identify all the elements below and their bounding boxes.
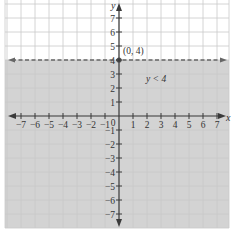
point-label: (0, 4) (123, 46, 144, 57)
coordinate-plane: −7−6−5−4−3−2−112345670−7−6−5−4−3−2−11234… (0, 0, 232, 233)
x-tick-label: 7 (215, 120, 220, 130)
y-tick-label: 6 (110, 28, 115, 38)
x-tick-label: 6 (201, 120, 206, 130)
x-axis-label: x (225, 112, 231, 123)
y-tick-label: −3 (105, 154, 115, 164)
y-tick-label: −1 (105, 126, 115, 136)
y-tick-label: 5 (110, 42, 115, 52)
x-tick-label: 3 (159, 120, 164, 130)
x-tick-label: −7 (16, 120, 26, 130)
y-tick-label: 3 (110, 70, 115, 80)
y-tick-label: 4 (110, 56, 115, 66)
y-tick-label: 1 (110, 98, 115, 108)
x-tick-label: 1 (131, 120, 136, 130)
x-tick-label: −3 (72, 120, 82, 130)
x-tick-label: −4 (58, 120, 68, 130)
y-tick-label: 7 (110, 14, 115, 24)
x-tick-label: 5 (187, 120, 192, 130)
y-tick-label: −2 (105, 140, 115, 150)
y-tick-label: −6 (105, 196, 115, 206)
y-tick-label: 2 (110, 84, 115, 94)
x-tick-label: 4 (173, 120, 178, 130)
y-tick-label: −7 (105, 210, 115, 220)
x-tick-label: −6 (30, 120, 40, 130)
y-tick-label: −5 (105, 182, 115, 192)
x-tick-label: 2 (145, 120, 150, 130)
y-tick-label: −4 (105, 168, 115, 178)
x-tick-label: −5 (44, 120, 54, 130)
region-label: y < 4 (145, 74, 166, 84)
x-tick-label: −2 (86, 120, 96, 130)
y-axis-label: y (110, 0, 116, 11)
